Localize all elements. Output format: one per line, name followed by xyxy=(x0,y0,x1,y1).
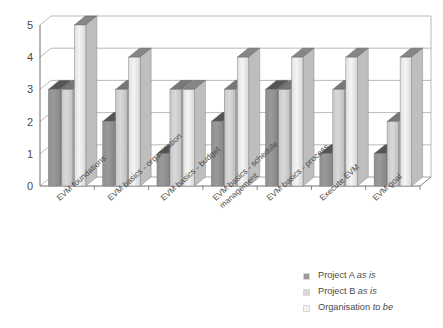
bar-side-face xyxy=(194,80,205,186)
bar-front-face xyxy=(183,89,195,186)
bar-front-face xyxy=(129,57,141,186)
bar-side-face xyxy=(357,48,368,186)
y-axis-tick-2: 2 xyxy=(27,116,33,128)
legend-swatch-1 xyxy=(303,289,310,296)
bar-front-face xyxy=(224,89,236,186)
bar-5-2 xyxy=(346,48,369,186)
y-axis-tick-5: 5 xyxy=(27,19,33,31)
bar-side-face xyxy=(86,16,97,186)
bar-front-face xyxy=(48,89,60,186)
legend-label-2: Organisation to be xyxy=(318,302,393,312)
legend-swatch-2 xyxy=(303,305,310,312)
legend-label-italic-1: as is xyxy=(358,286,377,296)
bar-front-face xyxy=(266,89,278,186)
bar-front-face xyxy=(400,57,412,186)
bar-front-face xyxy=(61,89,72,186)
bar-side-face xyxy=(249,48,260,186)
bar-side-face xyxy=(140,48,151,186)
bar-front-face xyxy=(157,154,169,186)
legend-label-italic-0: as is xyxy=(357,270,376,280)
bar-1-2 xyxy=(129,48,152,186)
bar-front-face xyxy=(292,57,304,186)
bar-front-face xyxy=(374,154,386,186)
depth-connector-4 xyxy=(40,48,51,57)
bar-6-2 xyxy=(400,48,423,186)
bar-side-face xyxy=(412,48,423,186)
bar-front-face xyxy=(74,25,86,186)
bar-front-face xyxy=(333,89,345,186)
floor-right-edge xyxy=(420,177,431,186)
bar-front-face xyxy=(116,89,128,186)
chart-legend: Project A as isProject B as isOrganisati… xyxy=(303,270,441,318)
bar-4-2 xyxy=(292,48,315,186)
bar-front-face xyxy=(320,154,332,186)
y-axis-tick-1: 1 xyxy=(27,148,33,160)
y-axis-tick-0: 0 xyxy=(27,180,33,192)
bar-side-face xyxy=(303,48,314,186)
legend-label-1: Project B as is xyxy=(318,286,377,296)
bar-0-2 xyxy=(74,16,97,186)
y-axis-tick-4: 4 xyxy=(27,51,33,63)
bar-2-2 xyxy=(183,80,206,186)
depth-connector-3 xyxy=(40,80,51,89)
bar-front-face xyxy=(103,122,115,186)
bar-front-face xyxy=(170,89,182,186)
legend-item-2[interactable]: Organisation to be xyxy=(303,302,441,318)
bar-front-face xyxy=(387,122,399,186)
bar-front-face xyxy=(279,89,291,186)
bar-3-2 xyxy=(237,48,260,186)
bar-front-face xyxy=(211,122,223,186)
y-axis-tick-3: 3 xyxy=(27,83,33,95)
legend-item-0[interactable]: Project A as is xyxy=(303,270,441,286)
chart-container: 012345 EVM foundationsEVM basics - organ… xyxy=(0,0,443,328)
bar-front-face xyxy=(346,57,358,186)
legend-item-1[interactable]: Project B as is xyxy=(303,286,441,302)
legend-label-italic-2: to be xyxy=(373,302,393,312)
legend-swatch-0 xyxy=(303,273,310,280)
depth-connector-5 xyxy=(40,16,51,25)
legend-label-0: Project A as is xyxy=(318,270,376,280)
bar-front-face xyxy=(237,57,249,186)
